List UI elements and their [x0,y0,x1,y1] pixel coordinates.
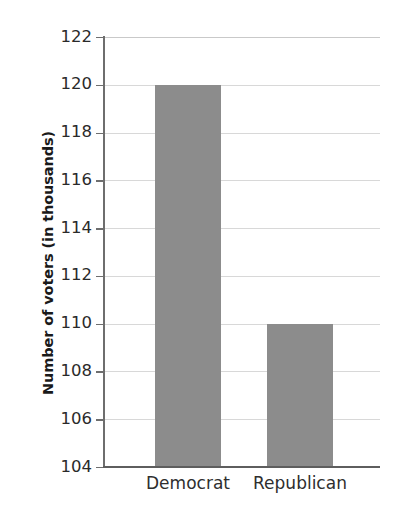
gridline-122 [104,37,380,38]
gridline-106 [104,419,380,420]
gridline-118 [104,133,380,134]
gridline-110 [104,324,380,325]
bar-republican [267,324,333,467]
gridline-114 [104,228,380,229]
x-label-republican: Republican [220,474,380,493]
y-tick-label-122: 122 [46,29,92,46]
y-axis-tick-labels: 104106108110112114116118120122 [42,0,92,521]
y-tick-label-104: 104 [46,459,92,476]
y-tick-label-108: 108 [46,363,92,380]
y-tick-label-114: 114 [46,220,92,237]
gridline-120 [104,85,380,86]
gridline-116 [104,180,380,181]
x-axis-line [103,466,380,468]
y-tick-label-112: 112 [46,267,92,284]
y-tick-label-116: 116 [46,172,92,189]
y-tick-label-118: 118 [46,124,92,141]
bar-chart: Number of voters (in thousands) 10410610… [0,0,406,521]
plot-area [104,37,380,467]
bar-democrat [155,85,221,467]
gridline-112 [104,276,380,277]
y-tick-label-110: 110 [46,315,92,332]
y-tick-label-106: 106 [46,411,92,428]
y-axis-line [103,36,105,468]
gridline-108 [104,371,380,372]
y-tick-label-120: 120 [46,76,92,93]
